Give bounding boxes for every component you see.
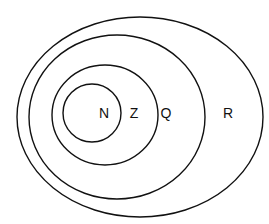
set-q-ellipse — [29, 35, 205, 199]
nested-sets-diagram: N Z Q R — [0, 0, 269, 224]
set-n-ellipse — [63, 84, 121, 142]
label-q: Q — [161, 105, 172, 121]
label-z: Z — [130, 105, 139, 121]
label-r: R — [223, 105, 233, 121]
label-n: N — [99, 105, 109, 121]
